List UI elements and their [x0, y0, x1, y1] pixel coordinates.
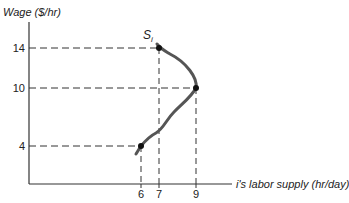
point-6-4	[138, 143, 144, 149]
curve-label-subscript: i	[151, 35, 153, 44]
supply-curve	[136, 44, 196, 154]
labor-supply-chart: Wage ($/hr) 14 10 4 6 7 9 i's labor supp…	[0, 0, 349, 203]
x-axis-label: i's labor supply (hr/day)	[236, 178, 349, 190]
y-tick-label-14: 14	[13, 42, 25, 54]
y-axis-label: Wage ($/hr)	[3, 6, 61, 18]
y-tick-label-10: 10	[13, 82, 25, 94]
point-7-14	[156, 45, 162, 51]
curve-label: Si	[143, 28, 153, 44]
x-tick-label-7: 7	[156, 188, 162, 200]
x-tick-label-6: 6	[138, 188, 144, 200]
x-tick-label-9: 9	[193, 188, 199, 200]
y-tick-label-4: 4	[19, 140, 25, 152]
point-9-10	[193, 85, 199, 91]
